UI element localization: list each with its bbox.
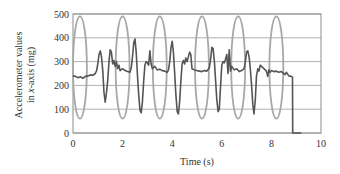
highlight-ellipse bbox=[195, 16, 209, 118]
x-tick-label: 0 bbox=[71, 138, 76, 149]
x-tick-label: 4 bbox=[170, 138, 175, 149]
y-tick-label: 300 bbox=[54, 56, 69, 67]
y-axis-ticks: 0100200300400500 bbox=[54, 9, 69, 139]
x-axis-title: Time (s) bbox=[180, 156, 214, 168]
y-tick-label: 500 bbox=[54, 9, 69, 20]
highlight-ellipse bbox=[269, 16, 283, 118]
signal-line bbox=[73, 39, 301, 133]
x-tick-label: 2 bbox=[120, 138, 125, 149]
y-tick-label: 400 bbox=[54, 32, 69, 43]
x-tick-label: 6 bbox=[219, 138, 224, 149]
highlight-ellipses bbox=[73, 16, 283, 118]
highlight-ellipse bbox=[73, 16, 87, 118]
y-axis-title: Accelerometer values in x-axis (mg) bbox=[13, 31, 37, 118]
x-axis-ticks: 0246810 bbox=[71, 138, 327, 149]
y-tick-label: 0 bbox=[64, 128, 69, 139]
x-tick-label: 10 bbox=[316, 138, 326, 149]
y-tick-label: 100 bbox=[54, 104, 69, 115]
y-axis-title-line2: in x-axis (mg) bbox=[25, 47, 37, 103]
x-tick-label: 8 bbox=[269, 138, 274, 149]
y-tick-label: 200 bbox=[54, 80, 69, 91]
accelerometer-chart: 0100200300400500 0246810 Time (s) Accele… bbox=[0, 0, 340, 174]
y-axis-title-line1: Accelerometer values bbox=[13, 31, 24, 118]
